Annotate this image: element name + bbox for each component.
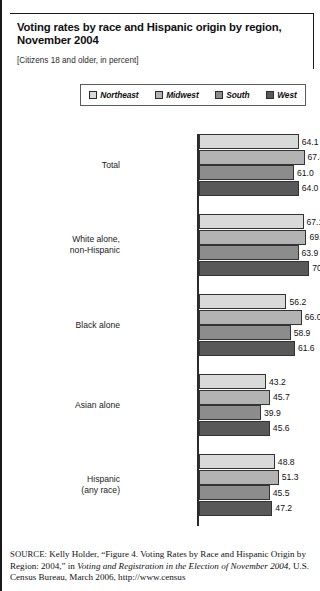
bar-row: 48.8 xyxy=(199,454,320,469)
bar-south xyxy=(199,165,294,180)
bar-row: 67.8 xyxy=(199,150,320,165)
bar-value-label: 66.0 xyxy=(302,312,320,322)
legend-swatch-icon xyxy=(215,91,223,99)
bar-west xyxy=(199,181,299,196)
legend-item-label: Northeast xyxy=(100,90,138,100)
bar-value-label: 43.2 xyxy=(266,377,286,387)
bar-northeast xyxy=(199,294,287,309)
category-label: Asian alone xyxy=(0,400,126,410)
bar-south xyxy=(199,245,299,260)
legend-item-west: West xyxy=(266,90,296,100)
page-title: Voting rates by race and Hispanic origin… xyxy=(17,21,303,48)
bar-row: 64.0 xyxy=(199,181,320,196)
bar-group-white-alone-non-hispanic: White alone,non-Hispanic67.169.063.970.7 xyxy=(2,214,320,276)
bar-value-label: 39.9 xyxy=(261,408,281,418)
legend-item-label: South xyxy=(226,90,249,100)
bar-northeast xyxy=(199,374,267,389)
bar-value-label: 63.9 xyxy=(299,248,319,258)
category-label-line: non-Hispanic xyxy=(0,245,120,255)
category-label: Hispanic(any race) xyxy=(0,474,126,495)
legend-item-northeast: Northeast xyxy=(89,90,138,100)
bar-value-label: 56.2 xyxy=(286,297,306,307)
bar-value-label: 64.1 xyxy=(299,137,319,147)
bar-row: 45.5 xyxy=(199,485,320,500)
chart-plot-area: Total64.167.861.064.0White alone,non-His… xyxy=(2,116,320,534)
legend-swatch-icon xyxy=(89,91,97,99)
bar-row: 61.6 xyxy=(199,341,320,356)
bar-row: 64.1 xyxy=(199,134,320,149)
category-label: Black alone xyxy=(0,320,126,330)
bar-midwest xyxy=(199,150,305,165)
bar-value-label: 70.7 xyxy=(309,263,320,273)
bar-row: 47.2 xyxy=(199,501,320,516)
legend-item-label: West xyxy=(277,90,296,100)
legend-item-south: South xyxy=(215,90,249,100)
bar-group-total: Total64.167.861.064.0 xyxy=(2,134,320,196)
bar-value-label: 69.0 xyxy=(306,232,320,242)
bar-west xyxy=(199,261,310,276)
bar-northeast xyxy=(199,214,304,229)
bar-midwest xyxy=(199,390,271,405)
bar-west xyxy=(199,501,273,516)
bar-row: 70.7 xyxy=(199,261,320,276)
bar-value-label: 48.8 xyxy=(275,457,295,467)
bar-northeast xyxy=(199,454,275,469)
bar-northeast xyxy=(199,134,299,149)
bar-value-label: 58.9 xyxy=(291,328,311,338)
bar-row: 51.3 xyxy=(199,470,320,485)
bar-group-asian-alone: Asian alone43.245.739.945.6 xyxy=(2,374,320,436)
bar-row: 67.1 xyxy=(199,214,320,229)
bar-row: 56.2 xyxy=(199,294,320,309)
bar-value-label: 64.0 xyxy=(299,183,319,193)
category-label: Total xyxy=(0,160,126,170)
bar-value-label: 45.7 xyxy=(270,392,290,402)
bar-row: 66.0 xyxy=(199,310,320,325)
bar-row: 43.2 xyxy=(199,374,320,389)
bar-row: 45.6 xyxy=(199,421,320,436)
legend-swatch-icon xyxy=(266,91,274,99)
bar-value-label: 61.6 xyxy=(295,343,315,353)
bar-west xyxy=(199,421,270,436)
bar-value-label: 47.2 xyxy=(272,503,292,513)
legend-item-midwest: Midwest xyxy=(155,90,198,100)
bar-value-label: 67.8 xyxy=(305,152,320,162)
bar-group-black-alone: Black alone56.266.058.961.6 xyxy=(2,294,320,356)
bar-value-label: 45.5 xyxy=(270,488,290,498)
bar-row: 58.9 xyxy=(199,325,320,340)
source-prefix: SOURCE: xyxy=(10,549,47,559)
source-note: SOURCE: Kelly Holder, “Figure 4. Voting … xyxy=(10,549,316,584)
bar-midwest xyxy=(199,470,279,485)
bar-midwest xyxy=(199,310,302,325)
category-label-line: Asian alone xyxy=(0,400,120,410)
legend-item-label: Midwest xyxy=(166,90,198,100)
bar-south xyxy=(199,325,291,340)
category-label-line: White alone, xyxy=(0,234,120,244)
bar-value-label: 51.3 xyxy=(279,472,299,482)
bar-row: 39.9 xyxy=(199,405,320,420)
category-label: White alone,non-Hispanic xyxy=(0,234,126,255)
bar-value-label: 67.1 xyxy=(304,217,320,227)
bar-group-hispanic-any-race: Hispanic(any race)48.851.345.547.2 xyxy=(2,454,320,516)
category-label-line: (any race) xyxy=(0,485,120,495)
bar-south xyxy=(199,485,270,500)
figure-subtitle: [Citizens 18 and older, in percent] xyxy=(17,56,303,66)
chart-legend: NortheastMidwestSouthWest xyxy=(80,84,306,106)
bar-row: 63.9 xyxy=(199,245,320,260)
bar-row: 61.0 xyxy=(199,165,320,180)
bar-value-label: 45.6 xyxy=(270,423,290,433)
bar-value-label: 61.0 xyxy=(294,168,314,178)
bar-west xyxy=(199,341,295,356)
figure-container: Voting rates by race and Hispanic origin… xyxy=(0,0,320,591)
bar-midwest xyxy=(199,230,307,245)
bar-row: 69.0 xyxy=(199,230,320,245)
legend-swatch-icon xyxy=(155,91,163,99)
category-label-line: Total xyxy=(0,160,120,170)
bar-south xyxy=(199,405,261,420)
bar-row: 45.7 xyxy=(199,390,320,405)
source-publication-title: Voting and Registration in the Election … xyxy=(77,561,288,571)
category-label-line: Hispanic xyxy=(0,474,120,484)
category-label-line: Black alone xyxy=(0,320,120,330)
figure-header: Voting rates by race and Hispanic origin… xyxy=(10,13,314,69)
